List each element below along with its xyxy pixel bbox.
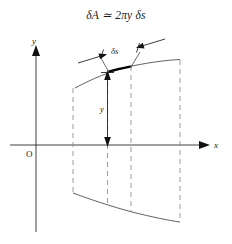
radius-label: y [99,104,104,114]
y-axis-arrowhead [32,45,40,56]
arc-length-label: δs [111,46,119,56]
arc-element-highlight [109,66,132,71]
radius-arrowhead-bottom [104,137,111,147]
leader-line-arc-start [101,58,109,72]
measure-arrowhead-left [99,53,108,59]
x-axis-arrowhead [199,141,210,149]
surface-of-revolution-diagram: y x O δs [0,0,232,244]
y-axis-label: y [31,36,36,46]
x-axis-label: x [213,140,218,150]
lower-profile-curve [73,193,180,222]
upper-profile-curve [75,60,180,89]
figure-container: δA ≃ 2πy δs y x O [0,0,232,244]
measure-arrowhead-right [136,43,145,49]
origin-label: O [26,149,33,159]
leader-line-arc-end [132,52,141,66]
